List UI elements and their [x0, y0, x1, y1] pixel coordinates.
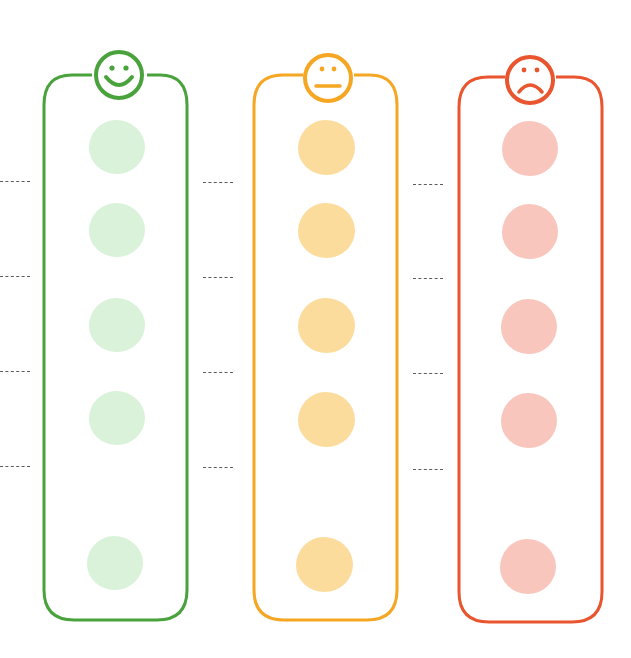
circle-sad-3[interactable] [501, 299, 557, 354]
dash-guide [0, 371, 30, 372]
circle-sad-2[interactable] [502, 204, 558, 259]
circle-sad-1[interactable] [502, 121, 558, 176]
dash-guide [203, 182, 233, 183]
dash-guide [413, 184, 443, 185]
sad-face-icon [507, 57, 553, 103]
circle-sad-4[interactable] [501, 393, 557, 448]
dash-guide [0, 276, 30, 277]
dash-guide [413, 469, 443, 470]
dash-guide [413, 373, 443, 374]
dash-guide [413, 278, 443, 279]
dash-guide [0, 466, 30, 467]
dash-guide [203, 372, 233, 373]
dash-guide [203, 277, 233, 278]
dash-guide [0, 181, 30, 182]
circle-sad-5[interactable] [500, 539, 556, 594]
dash-guide [203, 467, 233, 468]
